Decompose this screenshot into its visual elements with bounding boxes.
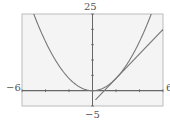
plot-area bbox=[0, 0, 170, 132]
